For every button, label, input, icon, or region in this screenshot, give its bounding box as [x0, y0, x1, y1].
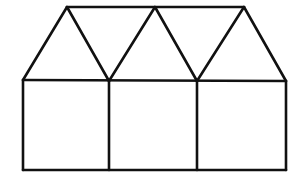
diagram-canvas — [0, 0, 301, 174]
roof-edge-1 — [23, 7, 67, 80]
roof-edge-3 — [109, 7, 155, 81]
houses-figure — [0, 0, 301, 174]
roof-edge-2 — [67, 7, 109, 81]
roof-edge-5 — [197, 7, 244, 81]
roof-edge-6 — [244, 7, 286, 81]
base-top-edge — [23, 80, 286, 81]
roof-edge-4 — [155, 7, 197, 81]
